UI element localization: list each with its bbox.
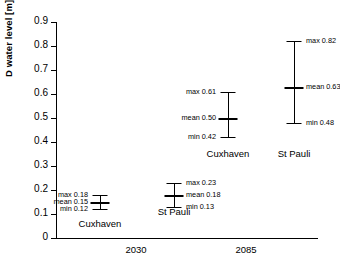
cap-min: [93, 209, 108, 210]
y-tick-0.2: 0.2: [51, 190, 56, 191]
y-tick-label-0.3: 0.3: [34, 159, 48, 170]
value-label-min: min 0.48: [306, 119, 334, 126]
value-label-mean: mean 0.18: [186, 191, 220, 198]
cap-mean: [285, 87, 304, 89]
cap-mean: [165, 195, 184, 197]
y-tick-label-0.4: 0.4: [34, 135, 48, 146]
y-tick-0.1: 0.1: [51, 214, 56, 215]
x-group-label-2085: 2085: [235, 244, 256, 255]
cap-max: [221, 92, 236, 93]
value-label-max: max 0.23: [186, 179, 216, 186]
y-tick-0: 0: [51, 238, 56, 239]
cap-mean: [219, 118, 238, 120]
cap-max: [93, 195, 108, 196]
y-tick-label-0.1: 0.1: [34, 207, 48, 218]
y-tick-label-0.5: 0.5: [34, 111, 48, 122]
value-label-max: max 0.61: [186, 88, 216, 95]
y-tick-0.6: 0.6: [51, 94, 56, 95]
value-label-min: min 0.12: [60, 206, 88, 213]
cap-min: [221, 137, 236, 138]
y-tick-label-0: 0: [42, 231, 48, 242]
value-label-max: max 0.82: [306, 38, 336, 45]
y-tick-label-0.7: 0.7: [34, 63, 48, 74]
y-tick-0.4: 0.4: [51, 142, 56, 143]
y-tick-label-0.6: 0.6: [34, 87, 48, 98]
cap-mean: [91, 202, 110, 204]
y-tick-0.7: 0.7: [51, 70, 56, 71]
series-name-label: St Pauli: [278, 148, 311, 159]
value-label-mean: mean 0.63: [306, 83, 340, 90]
whisker-stem: [294, 41, 295, 123]
value-label-min: min 0.42: [188, 134, 216, 141]
whisker-stem: [228, 92, 229, 138]
y-axis-title: D water level [m]: [3, 0, 14, 77]
x-axis-line: [56, 238, 318, 239]
cap-max: [287, 41, 302, 42]
y-tick-label-0.8: 0.8: [34, 39, 48, 50]
value-label-mean: mean 0.50: [182, 114, 216, 121]
y-tick-label-0.2: 0.2: [34, 183, 48, 194]
y-tick-0.8: 0.8: [51, 46, 56, 47]
series-name-label: St Pauli: [158, 206, 191, 217]
plot-area: 00.10.20.30.40.50.60.70.80.9 max 0.18mea…: [56, 22, 318, 238]
series-name-label: Cuxhaven: [79, 218, 122, 229]
y-tick-0.9: 0.9: [51, 22, 56, 23]
y-tick-label-0.9: 0.9: [34, 15, 48, 26]
series-name-label: Cuxhaven: [207, 148, 250, 159]
y-tick-0.3: 0.3: [51, 166, 56, 167]
cap-min: [287, 123, 302, 124]
x-group-label-2030: 2030: [125, 244, 146, 255]
cap-max: [167, 183, 182, 184]
y-tick-0.5: 0.5: [51, 118, 56, 119]
